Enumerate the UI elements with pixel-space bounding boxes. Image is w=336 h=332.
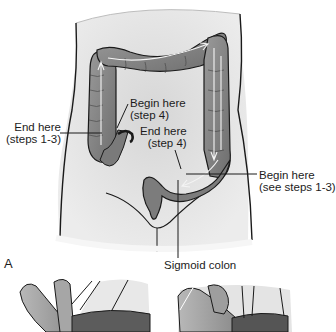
label-line-2: (steps 1-3) [6,133,61,145]
label-begin-here-steps-1-3: Begin here (see steps 1-3) [259,169,336,193]
label-line-2: (step 4) [140,137,187,149]
label-line-2: (see steps 1-3) [259,181,336,193]
label-line-2: (step 4) [130,109,186,121]
panel-letter-a: A [4,256,13,271]
label-line-1: End here [140,125,187,137]
label-sigmoid-colon: Sigmoid colon [164,259,236,271]
label-line-1: Begin here [259,169,336,181]
label-end-here-steps-1-3: End here (steps 1-3) [6,121,61,145]
label-line-1: End here [6,121,61,133]
panel-c-hands-illustration [178,285,292,332]
label-begin-here-step-4: Begin here (step 4) [130,97,186,121]
label-end-here-step-4: End here (step 4) [140,125,187,149]
panel-b-hands-illustration [20,279,150,332]
label-line-1: Begin here [130,97,186,109]
